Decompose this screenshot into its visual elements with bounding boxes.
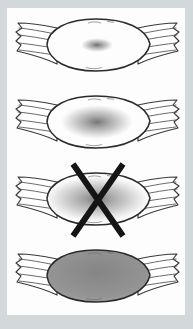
muscle-figure-svg-4 [11, 239, 181, 315]
muscle-illustration-4 [11, 239, 181, 315]
muscle-illustration-2 [11, 85, 181, 161]
central-shading [61, 105, 133, 139]
muscle-figure-svg-1 [11, 8, 181, 84]
muscle-figure-svg-2 [11, 85, 181, 161]
illustration-panel [7, 8, 185, 315]
muscle-illustration-1 [11, 8, 181, 84]
central-shading [81, 38, 113, 52]
muscle-belly [47, 250, 150, 302]
muscle-illustration-3 [11, 162, 181, 238]
muscle-figure-svg-3 [11, 162, 181, 238]
